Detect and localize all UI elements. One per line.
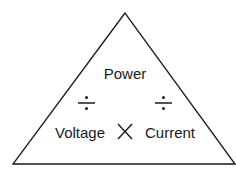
divide-icon-right xyxy=(155,96,172,110)
multiply-icon xyxy=(118,124,132,139)
power-triangle-diagram: Power Voltage Current xyxy=(0,0,236,172)
label-voltage: Voltage xyxy=(55,124,105,141)
divide-icon-left xyxy=(78,96,95,110)
label-power: Power xyxy=(104,65,147,82)
label-current: Current xyxy=(145,124,196,141)
triangle-outline xyxy=(13,13,235,164)
